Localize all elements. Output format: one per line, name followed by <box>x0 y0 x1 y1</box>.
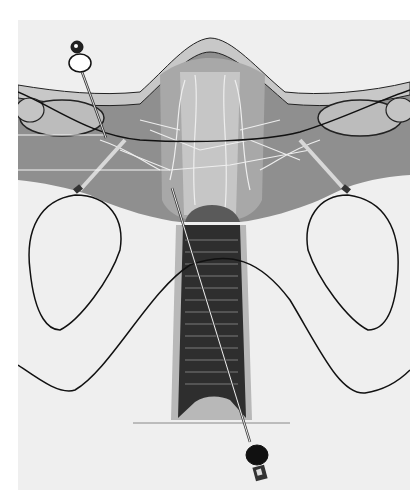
ovary-outline-right <box>307 195 398 330</box>
ovary-outline-left <box>29 195 121 330</box>
anatomy-illustration <box>0 0 417 494</box>
